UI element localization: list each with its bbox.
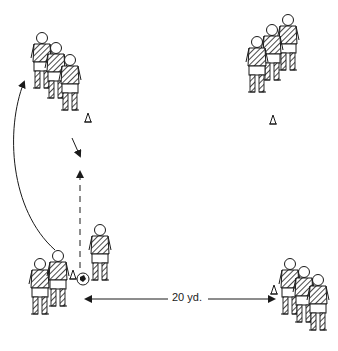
group-bottom-left (29, 225, 111, 315)
cone-icon (269, 115, 277, 124)
move-arrow (72, 138, 80, 156)
drill-diagram: 20 yd. (0, 0, 338, 351)
group-top-left (31, 33, 92, 123)
dribbler (89, 225, 111, 281)
cone-icon (84, 113, 92, 122)
run-arrow-curved (14, 82, 55, 250)
cone-icon (270, 285, 278, 294)
diagram-canvas (0, 0, 338, 351)
group-top-right (246, 15, 299, 125)
distance-label: 20 yd. (170, 291, 204, 303)
cone-icon (69, 270, 77, 279)
group-bottom-right (270, 259, 329, 331)
